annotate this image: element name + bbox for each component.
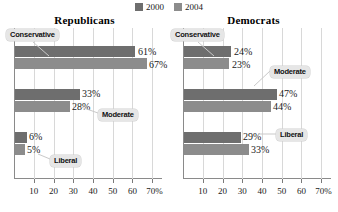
legend-swatch-2000 [135,3,143,11]
callout-leader-lines [172,14,335,212]
chart-figure: 2000 2004 Republicans 61% [0,0,338,212]
panel-republicans: Republicans 61% 67% 33% 28% [3,14,166,212]
callout-republicans-conservative: Conservative [6,29,59,41]
chart-legend: 2000 2004 [0,1,338,13]
callout-republicans-liberal: Liberal [50,155,81,167]
legend-item-2004: 2004 [174,3,203,12]
panel-democrats: Democrats 24% 23% 47% 44% [172,14,335,212]
callout-democrats-moderate: Moderate [270,66,310,78]
callout-democrats-liberal: Liberal [276,129,307,141]
legend-label-2000: 2000 [146,3,164,12]
legend-item-2000: 2000 [135,3,164,12]
callout-republicans-moderate: Moderate [98,109,138,121]
legend-swatch-2004 [174,3,182,11]
callout-democrats-conservative: Conservative [171,29,224,41]
callout-leader-lines [3,14,166,212]
legend-label-2004: 2004 [185,3,203,12]
